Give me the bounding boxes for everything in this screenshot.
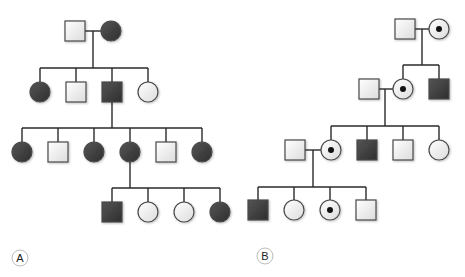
individual-female-unaffected [429,140,449,160]
individual-female-unaffected [284,200,304,220]
male-square-icon [102,202,122,222]
panel-label-b: B [257,248,273,264]
female-circle-icon [138,202,158,222]
male-square-icon [359,79,379,99]
individual-male-unaffected [356,200,376,220]
carrier-dot-icon [328,147,334,153]
female-circle-icon [210,202,230,222]
male-square-icon [65,21,85,41]
male-square-icon [48,142,68,162]
panel-label-a: A [12,250,28,266]
individual-female-affected [192,142,212,162]
individual-female-carrier [393,79,413,99]
carrier-dot-icon [327,207,333,213]
individual-male-affected [357,140,377,160]
individual-male-unaffected [285,140,305,160]
pedigree-a: A [12,21,230,266]
individual-male-unaffected [395,19,415,39]
individual-female-carrier [429,19,449,39]
individual-female-affected [120,142,140,162]
individual-male-affected [248,200,268,220]
individual-female-affected [101,21,121,41]
individual-female-unaffected [138,82,158,102]
individual-female-affected [30,82,50,102]
male-square-icon [429,79,449,99]
individual-female-affected [12,142,32,162]
carrier-dot-icon [436,26,442,32]
female-circle-icon [429,140,449,160]
individual-male-unaffected [66,82,86,102]
panel-label-text: A [16,252,24,264]
male-square-icon [248,200,268,220]
individual-male-unaffected [359,79,379,99]
carrier-dot-icon [400,86,406,92]
individual-female-carrier [321,140,341,160]
female-circle-icon [30,82,50,102]
female-circle-icon [174,202,194,222]
individual-female-unaffected [174,202,194,222]
female-circle-icon [138,82,158,102]
female-circle-icon [84,142,104,162]
female-circle-icon [101,21,121,41]
individual-male-unaffected [65,21,85,41]
male-square-icon [102,82,122,102]
individual-female-affected [210,202,230,222]
individual-female-affected [84,142,104,162]
individual-male-affected [429,79,449,99]
female-circle-icon [192,142,212,162]
female-circle-icon [120,142,140,162]
female-circle-icon [12,142,32,162]
individual-male-unaffected [393,140,413,160]
male-square-icon [66,82,86,102]
panel-label-text: B [261,250,268,262]
male-square-icon [395,19,415,39]
male-square-icon [285,140,305,160]
individual-female-unaffected [138,202,158,222]
male-square-icon [357,140,377,160]
male-square-icon [393,140,413,160]
individual-male-affected [102,82,122,102]
male-square-icon [156,142,176,162]
pedigree-b: B [248,19,449,264]
male-square-icon [356,200,376,220]
individual-male-unaffected [156,142,176,162]
individual-female-carrier [320,200,340,220]
individual-male-unaffected [48,142,68,162]
female-circle-icon [284,200,304,220]
pedigree-figure: A B [0,0,465,277]
individual-male-affected [102,202,122,222]
